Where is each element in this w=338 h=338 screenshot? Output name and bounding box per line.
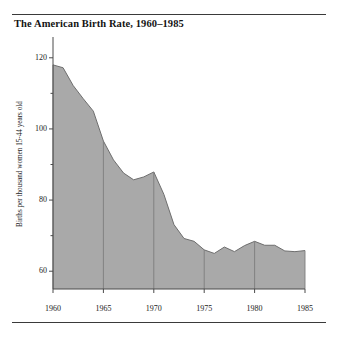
y-tick-label: 100 [21, 124, 47, 133]
x-tick-label: 1975 [186, 304, 222, 313]
x-tick-label: 1970 [136, 304, 172, 313]
chart-title: The American Birth Rate, 1960–1985 [14, 18, 184, 29]
y-tick-label: 120 [21, 53, 47, 62]
bottom-rule [12, 322, 326, 323]
x-tick-label: 1965 [85, 304, 121, 313]
y-tick-label: 80 [21, 195, 47, 204]
area-fill [53, 65, 305, 289]
figure: The American Birth Rate, 1960–1985 Birth… [0, 0, 338, 338]
x-tick-label: 1985 [287, 304, 323, 313]
x-tick-label: 1980 [237, 304, 273, 313]
y-axis-label: Births per thousand women 15-44 years ol… [16, 64, 24, 264]
area-chart-plot [0, 0, 338, 338]
y-tick-label: 60 [21, 266, 47, 275]
x-tick-label: 1960 [35, 304, 71, 313]
top-rule [12, 14, 326, 15]
